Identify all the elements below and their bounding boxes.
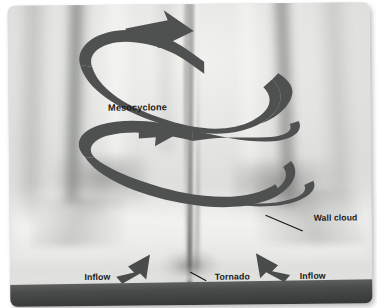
label-wall-cloud: Wall cloud <box>314 213 358 222</box>
inflow-arrow-right <box>256 253 290 282</box>
label-inflow-right: Inflow <box>300 272 326 281</box>
annotation-overlay <box>8 2 373 306</box>
label-mesocyclone: Mesocyclone <box>108 104 167 114</box>
ribbon-mid-right-limb <box>275 161 295 193</box>
ribbon-mid-front <box>85 155 281 208</box>
leader-line-wall-cloud <box>266 215 303 231</box>
label-tornado: Tornado <box>215 273 250 282</box>
photo-plate: Mesocyclone Wall cloud Inflow Tornado In… <box>8 2 373 306</box>
leader-line-tornado <box>190 272 206 281</box>
label-inflow-left: Inflow <box>84 273 110 282</box>
ribbon-mid-back <box>79 120 193 158</box>
ribbon-arrowhead-upper <box>124 10 194 49</box>
photo-canvas: Mesocyclone Wall cloud Inflow Tornado In… <box>8 2 373 306</box>
inflow-arrow-left <box>116 254 150 283</box>
figure-stage: Mesocyclone Wall cloud Inflow Tornado In… <box>0 0 377 308</box>
